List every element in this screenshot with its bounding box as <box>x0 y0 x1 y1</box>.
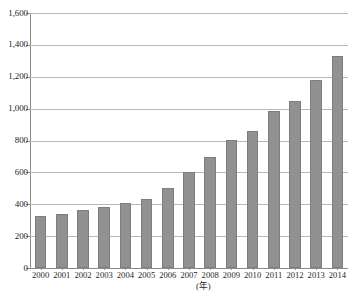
bar-2010 <box>247 131 259 268</box>
x-axis-tick-label-2000: 2000 <box>30 270 51 280</box>
bar-2013 <box>310 80 322 268</box>
x-axis-tick-label-2009: 2009 <box>221 270 242 280</box>
x-axis-tick-label-2010: 2010 <box>242 270 263 280</box>
bar-2008 <box>204 157 216 268</box>
bar-chart: 02004006008001,0001,2001,4001,600 200020… <box>0 0 350 300</box>
bar-2001 <box>56 214 68 268</box>
bar-2007 <box>183 172 195 268</box>
x-axis-unit-label: (年) <box>196 281 211 291</box>
x-axis-tick-label-2013: 2013 <box>306 270 327 280</box>
y-axis-tick-label-1200: 1,200 <box>8 72 28 81</box>
x-axis-tick-label-2014: 2014 <box>327 270 348 280</box>
y-axis-tick-label-400: 400 <box>15 200 28 209</box>
bar-2002 <box>77 210 89 268</box>
plot-area <box>30 13 348 268</box>
y-axis-tick-label-800: 800 <box>15 136 28 145</box>
bar-2000 <box>35 216 47 268</box>
bar-2004 <box>120 203 132 268</box>
bar-2011 <box>268 111 280 268</box>
x-axis-tick-label-2012: 2012 <box>284 270 305 280</box>
x-axis-tick-label-2011: 2011 <box>263 270 284 280</box>
x-axis-labels: 2000200120022003200420052006200720082009… <box>30 270 348 282</box>
x-axis-tick-label-2003: 2003 <box>94 270 115 280</box>
bar-2012 <box>289 101 301 268</box>
x-axis-tick-label-2008: 2008 <box>200 270 221 280</box>
x-axis-tick-label-2004: 2004 <box>115 270 136 280</box>
bar-2006 <box>162 188 174 268</box>
x-axis-tick-label-2007: 2007 <box>178 270 199 280</box>
bar-2005 <box>141 199 153 268</box>
y-axis-tick-label-1600: 1,600 <box>8 9 28 18</box>
y-axis-tick-label-600: 600 <box>15 168 28 177</box>
y-axis-tick-label-0: 0 <box>24 264 28 273</box>
y-axis-tick-label-1000: 1,000 <box>8 104 28 113</box>
x-axis-tick-label-2002: 2002 <box>72 270 93 280</box>
y-axis-tick-label-200: 200 <box>15 232 28 241</box>
x-axis-tick-label-2005: 2005 <box>136 270 157 280</box>
bar-2003 <box>98 207 110 268</box>
x-axis-tick-label-2001: 2001 <box>51 270 72 280</box>
y-axis-tick-label-1400: 1,400 <box>8 40 28 49</box>
bar-2014 <box>332 56 344 268</box>
bars-group <box>30 13 348 268</box>
bar-2009 <box>226 140 238 268</box>
x-axis-tick-label-2006: 2006 <box>157 270 178 280</box>
